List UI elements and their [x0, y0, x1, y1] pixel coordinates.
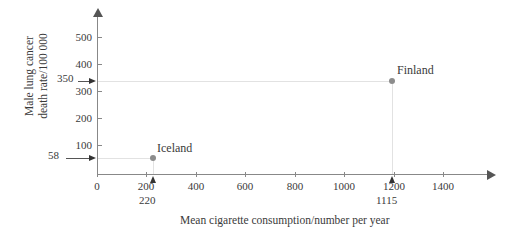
- annotation-arrow-220-icon: [150, 176, 156, 183]
- y-axis-title: Male lung cancer death rate/100 000: [22, 2, 50, 150]
- x-tick-label: 400: [174, 180, 218, 192]
- y-tick-label: 400: [58, 58, 92, 70]
- x-tick-label: 1000: [322, 180, 366, 192]
- x-tick-mark: [245, 172, 246, 177]
- x-tick-mark: [344, 172, 345, 177]
- annotation-line-58: [66, 158, 90, 159]
- y-tick-label: 100: [58, 139, 92, 151]
- y-tick-mark: [97, 64, 102, 65]
- y-tick-label: 500: [58, 31, 92, 43]
- y-axis-arrow-icon: [93, 8, 103, 17]
- data-point-label-iceland: Iceland: [157, 141, 192, 156]
- x-axis-arrow-icon: [487, 170, 496, 180]
- annotation-label-350: 350: [57, 72, 74, 84]
- y-axis-title-line2: death rate/100 000: [37, 33, 49, 119]
- guide-line-finland-horizontal: [98, 81, 393, 82]
- x-tick-mark: [443, 172, 444, 177]
- y-tick-label: 200: [58, 112, 92, 124]
- x-tick-mark: [97, 172, 98, 177]
- x-axis-line: [97, 174, 489, 175]
- annotation-label-1115: 1115: [376, 194, 397, 206]
- guide-line-finland-vertical: [392, 81, 393, 175]
- x-tick-label: 600: [223, 180, 267, 192]
- x-tick-label: 1400: [421, 180, 465, 192]
- scatter-chart: 0 200 400 600 800 1000 1200 1400 100 200…: [0, 0, 505, 237]
- y-tick-mark: [97, 91, 102, 92]
- x-tick-mark: [295, 172, 296, 177]
- annotation-arrow-58-icon: [89, 155, 96, 161]
- y-axis-line: [97, 16, 98, 175]
- x-tick-mark: [146, 172, 147, 177]
- annotation-label-220: 220: [139, 194, 156, 206]
- y-tick-mark: [97, 37, 102, 38]
- data-point-finland[interactable]: [389, 78, 395, 84]
- data-point-iceland[interactable]: [150, 155, 156, 161]
- data-point-label-finland: Finland: [397, 63, 434, 78]
- x-tick-label: 800: [273, 180, 317, 192]
- x-tick-label: 0: [75, 180, 119, 192]
- x-tick-label: 200: [124, 180, 168, 192]
- annotation-arrow-1115-icon: [389, 176, 395, 183]
- y-axis-title-line1: Male lung cancer: [23, 36, 35, 116]
- y-tick-label: 300: [58, 85, 92, 97]
- x-axis-title: Mean cigarette consumption/number per ye…: [180, 214, 389, 226]
- x-tick-mark: [196, 172, 197, 177]
- y-tick-mark: [97, 118, 102, 119]
- y-tick-mark: [97, 145, 102, 146]
- annotation-label-58: 58: [48, 149, 59, 161]
- annotation-arrow-350-icon: [89, 78, 96, 84]
- guide-line-iceland-horizontal: [98, 158, 154, 159]
